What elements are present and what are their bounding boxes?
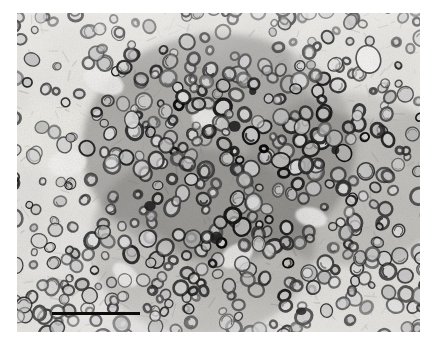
micrograph-image	[17, 13, 420, 332]
scale-bar	[52, 312, 140, 315]
figure-root	[0, 0, 436, 343]
micrograph-panel	[17, 13, 420, 332]
figure-caption	[0, 0, 1, 1]
